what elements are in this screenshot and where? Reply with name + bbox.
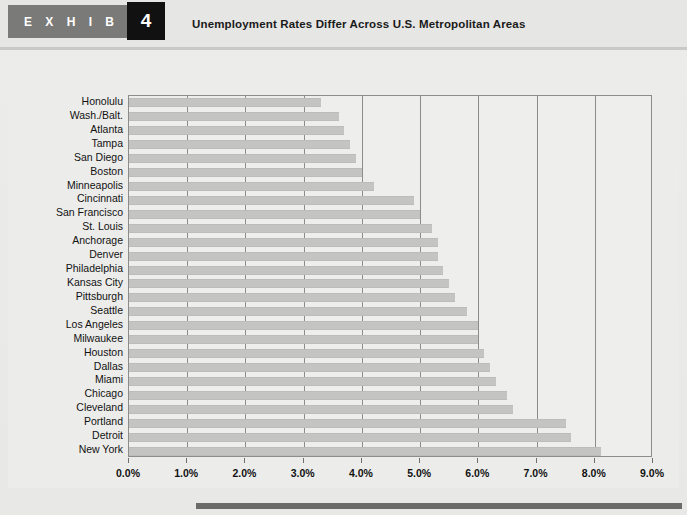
y-axis-label: Atlanta (9, 124, 123, 135)
y-axis-label: Houston (9, 347, 123, 358)
bar-row[interactable] (129, 347, 651, 361)
bar[interactable] (129, 419, 566, 428)
y-axis-label: Anchorage (9, 235, 123, 246)
y-axis-label: Boston (9, 166, 123, 177)
bar[interactable] (129, 349, 484, 358)
exhibit-page: E X H I B I T 4 Unemployment Rates Diffe… (0, 0, 687, 515)
x-tick-mark (244, 458, 245, 463)
x-axis-label: 8.0% (564, 467, 624, 479)
x-tick-mark (186, 458, 187, 463)
bar-row[interactable] (129, 319, 651, 333)
bar[interactable] (129, 307, 467, 316)
bar[interactable] (129, 433, 571, 442)
y-axis-label: San Diego (9, 152, 123, 163)
bar-row[interactable] (129, 374, 651, 388)
x-axis-label: 6.0% (447, 467, 507, 479)
x-axis-label: 2.0% (214, 467, 274, 479)
bar-row[interactable] (129, 430, 651, 444)
bar-row[interactable] (129, 152, 651, 166)
bar[interactable] (129, 391, 507, 400)
bar-row[interactable] (129, 388, 651, 402)
bar[interactable] (129, 224, 432, 233)
bar[interactable] (129, 447, 601, 456)
y-axis-label: Portland (9, 416, 123, 427)
bar-row[interactable] (129, 166, 651, 180)
y-axis-label: Cleveland (9, 402, 123, 413)
x-axis-label: 3.0% (273, 467, 333, 479)
x-axis-label: 7.0% (506, 467, 566, 479)
x-axis-label: 9.0% (622, 467, 682, 479)
bar-row[interactable] (129, 138, 651, 152)
bar[interactable] (129, 252, 438, 261)
bar-row[interactable] (129, 235, 651, 249)
bar-row[interactable] (129, 110, 651, 124)
bar[interactable] (129, 293, 455, 302)
header-divider (0, 47, 687, 50)
x-tick-mark (419, 458, 420, 463)
bar[interactable] (129, 363, 490, 372)
x-tick-mark (594, 458, 595, 463)
bar[interactable] (129, 112, 339, 121)
bar[interactable] (129, 335, 478, 344)
bar-row[interactable] (129, 221, 651, 235)
bar-row[interactable] (129, 444, 651, 458)
x-tick-mark (477, 458, 478, 463)
bar-row[interactable] (129, 207, 651, 221)
bar[interactable] (129, 266, 443, 275)
bar-row[interactable] (129, 277, 651, 291)
bar[interactable] (129, 154, 356, 163)
exhibit-header: E X H I B I T 4 Unemployment Rates Diffe… (0, 0, 687, 47)
bar-row[interactable] (129, 249, 651, 263)
bar-row[interactable] (129, 193, 651, 207)
bar-row[interactable] (129, 263, 651, 277)
y-axis-label: Milwaukee (9, 333, 123, 344)
y-axis-label: Minneapolis (9, 180, 123, 191)
bar[interactable] (129, 377, 496, 386)
bar-row[interactable] (129, 124, 651, 138)
chart-canvas: HonoluluWash./Balt.AtlantaTampaSan Diego… (8, 58, 679, 488)
y-axis-label: Los Angeles (9, 319, 123, 330)
x-tick-mark (303, 458, 304, 463)
y-axis-label: Miami (9, 374, 123, 385)
bar-row[interactable] (129, 96, 651, 110)
exhibit-title: Unemployment Rates Differ Across U.S. Me… (192, 18, 525, 30)
bar[interactable] (129, 182, 374, 191)
bar[interactable] (129, 405, 513, 414)
bar-row[interactable] (129, 180, 651, 194)
y-axis-label: Cincinnati (9, 193, 123, 204)
y-axis-label: New York (9, 444, 123, 455)
y-axis-label: Detroit (9, 430, 123, 441)
x-tick-mark (652, 458, 653, 463)
bar[interactable] (129, 126, 344, 135)
x-axis-label: 5.0% (389, 467, 449, 479)
bar[interactable] (129, 279, 449, 288)
x-axis-label: 1.0% (156, 467, 216, 479)
bar[interactable] (129, 196, 414, 205)
bar[interactable] (129, 238, 438, 247)
bar[interactable] (129, 321, 478, 330)
x-tick-mark (361, 458, 362, 463)
bar-row[interactable] (129, 333, 651, 347)
bar-row[interactable] (129, 305, 651, 319)
bar-row[interactable] (129, 416, 651, 430)
y-axis-label: Philadelphia (9, 263, 123, 274)
exhibit-number-box: 4 (127, 2, 165, 40)
y-axis-label: Kansas City (9, 277, 123, 288)
x-tick-mark (128, 458, 129, 463)
bar-row[interactable] (129, 402, 651, 416)
y-axis-label: Wash./Balt. (9, 110, 123, 121)
exhibit-number: 4 (141, 10, 152, 32)
y-axis-label: San Francisco (9, 207, 123, 218)
y-axis-label: Seattle (9, 305, 123, 316)
bar[interactable] (129, 168, 362, 177)
y-axis-label: St. Louis (9, 221, 123, 232)
y-axis-label: Tampa (9, 138, 123, 149)
y-axis-label: Pittsburgh (9, 291, 123, 302)
bar-row[interactable] (129, 291, 651, 305)
bar[interactable] (129, 140, 350, 149)
bar[interactable] (129, 210, 420, 219)
bar[interactable] (129, 98, 321, 107)
x-axis-label: 0.0% (98, 467, 158, 479)
bar-row[interactable] (129, 361, 651, 375)
y-axis-label: Honolulu (9, 96, 123, 107)
